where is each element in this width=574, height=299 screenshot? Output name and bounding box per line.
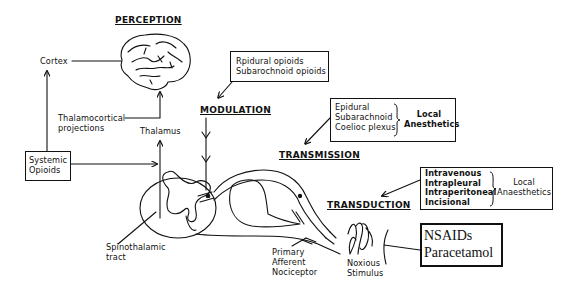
label-thalamus: Thalamus bbox=[140, 126, 181, 136]
brain-icon bbox=[121, 34, 190, 89]
label-noxious-stimulus: Noxious Stimulus bbox=[347, 258, 383, 278]
stage-transduction: TRANSDUCTION bbox=[327, 200, 411, 210]
box-neuraxial-opioids: Rpidural opioids Subarochnoid opioids bbox=[230, 51, 329, 82]
label-thalamocortical-projections: Thalamocortical projections bbox=[58, 113, 125, 133]
label-cortex: Cortex bbox=[40, 56, 68, 66]
stage-modulation: MODULATION bbox=[200, 105, 271, 115]
transduction-routes: Intravenous Intrapleural Intraperitoneal… bbox=[425, 169, 496, 207]
stage-transmission: TRANSMISSION bbox=[279, 150, 360, 160]
stage-perception: PERCEPTION bbox=[115, 15, 182, 25]
label-primary-afferent-nociceptor: Primary Afferent Nociceptor bbox=[272, 247, 317, 277]
spinal-cord-icon bbox=[140, 170, 340, 254]
brace-icon bbox=[489, 171, 497, 207]
transmission-agent: Local Anesthetics bbox=[404, 109, 454, 129]
box-nsaids-paracetamol: NSAIDs Paracetamol bbox=[420, 223, 503, 267]
box-transduction-local-anaesthetics: Intravenous Intrapleural Intraperitoneal… bbox=[420, 167, 553, 210]
box-systemic-opioids: Systemic Opioids bbox=[25, 151, 71, 181]
transduction-agent: Local Anaesthetics bbox=[497, 177, 551, 197]
brace-icon bbox=[393, 103, 401, 137]
label-spinothalamic-tract: Spinothalamic tract bbox=[106, 242, 166, 262]
noxious-stimulus-icon bbox=[348, 223, 373, 254]
box-transmission-local-anesthetics: Epidural Subarachnoid Coelioc plexus Loc… bbox=[330, 98, 456, 142]
transmission-routes: Epidural Subarachnoid Coelioc plexus bbox=[335, 102, 396, 132]
